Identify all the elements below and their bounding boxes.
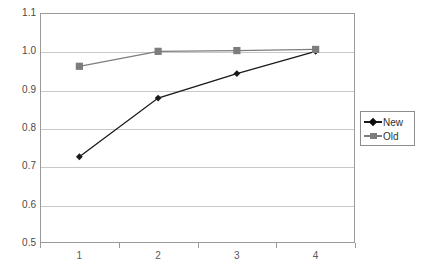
y-tick-label: 1.1 <box>6 8 36 18</box>
y-axis-tick-labels: 1.11.00.90.80.70.60.5 <box>0 0 36 274</box>
legend-item-old[interactable]: Old <box>363 129 412 143</box>
x-tick-label: 2 <box>143 251 173 261</box>
series-line-new <box>79 51 315 156</box>
square-icon <box>363 130 383 142</box>
diamond-icon <box>363 116 383 128</box>
x-tick-label: 3 <box>222 251 252 261</box>
data-point-old-3[interactable] <box>233 47 240 54</box>
y-tick-label: 0.9 <box>6 85 36 95</box>
legend-label-old: Old <box>383 131 399 142</box>
x-tick-mark <box>40 243 41 248</box>
series-line-old <box>79 49 315 66</box>
legend-label-new: New <box>383 117 403 128</box>
y-tick-label: 0.7 <box>6 161 36 171</box>
data-point-new-3[interactable] <box>233 70 240 77</box>
y-tick-label: 0.5 <box>6 238 36 248</box>
data-point-old-1[interactable] <box>76 63 83 70</box>
x-tick-mark <box>119 243 120 248</box>
legend-item-new[interactable]: New <box>363 115 412 129</box>
series-plot-layer <box>40 13 355 243</box>
y-tick-label: 1.0 <box>6 46 36 56</box>
x-tick-mark <box>198 243 199 248</box>
line-chart: 1.11.00.90.80.70.60.5 1234 New Old <box>0 0 423 274</box>
chart-legend: New Old <box>360 111 415 146</box>
y-tick-label: 0.6 <box>6 200 36 210</box>
x-tick-label: 4 <box>301 251 331 261</box>
x-tick-label: 1 <box>64 251 94 261</box>
x-tick-mark <box>355 243 356 248</box>
x-tick-mark <box>276 243 277 248</box>
y-tick-label: 0.8 <box>6 123 36 133</box>
data-point-old-4[interactable] <box>312 46 319 53</box>
data-point-old-2[interactable] <box>155 48 162 55</box>
